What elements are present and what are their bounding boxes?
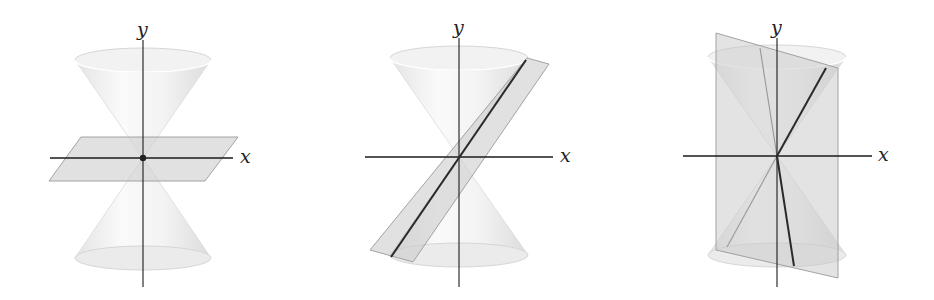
y-axis-label: y [770,16,782,38]
degenerate-conics-figure: y x y x [0,0,934,300]
y-axis-label: y [136,18,148,40]
x-axis-label: x [240,145,251,167]
x-axis-label: x [878,143,889,165]
y-axis-label: y [452,16,464,38]
x-axis-label: x [560,144,571,166]
panel-point: y x [49,18,251,287]
intersection-point [140,155,146,161]
panel-two-lines: y x [683,16,889,287]
panel-line: y x [365,16,571,287]
